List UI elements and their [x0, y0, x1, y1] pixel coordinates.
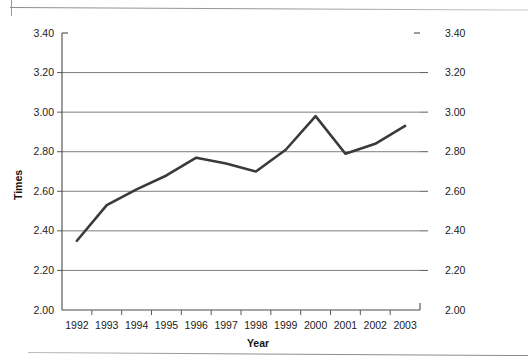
y-axis-left-tick-label: 3.00 [34, 106, 55, 118]
x-axis-tick-label: 1997 [214, 319, 238, 331]
y-axis-right-tick-label: 2.20 [445, 264, 466, 276]
x-axis-tick-label: 2002 [364, 319, 388, 331]
y-axis-right-tick-label: 3.00 [445, 106, 466, 118]
y-axis-left-tick-label: 3.40 [34, 27, 55, 39]
x-axis-tick-label: 1999 [274, 319, 298, 331]
y-axis-left-tick-label: 2.80 [34, 145, 55, 157]
x-axis-tick-label: 2000 [304, 319, 328, 331]
y-axis-right-tick-label: 2.60 [445, 185, 466, 197]
x-axis-tick-label: 2001 [334, 319, 358, 331]
x-axis-tick-label: 1993 [95, 319, 119, 331]
x-axis-title: Year [247, 337, 269, 349]
line-chart-figure: 3.403.203.002.802.602.402.202.00 3.403.2… [0, 0, 528, 362]
x-axis-tick-label: 1996 [185, 319, 209, 331]
gridlines-group [62, 73, 420, 271]
x-axis-tick-marks [92, 310, 390, 315]
x-axis-tick-label: 1998 [244, 319, 268, 331]
x-axis-tick-labels: 1992199319941995199619971998199920002001… [65, 319, 417, 331]
x-axis-tick-label: 1992 [65, 319, 89, 331]
y-axis-right-tick-labels: 3.403.203.002.802.602.402.202.00 [420, 27, 466, 316]
y-axis-left-tick-labels: 3.403.203.002.802.602.402.202.00 [34, 27, 62, 316]
y-axis-title: Times [12, 170, 24, 200]
y-axis-left-tick-label: 2.60 [34, 185, 55, 197]
y-axis-left-tick-label: 2.40 [34, 224, 55, 236]
y-axis-left-tick-label: 3.20 [34, 66, 55, 78]
y-axis-left-tick-label: 2.20 [34, 264, 55, 276]
x-axis-tick-label: 1995 [155, 319, 179, 331]
chart-canvas: 3.403.203.002.802.602.402.202.00 3.403.2… [0, 0, 528, 362]
y-axis-right-tick-label: 2.00 [445, 304, 466, 316]
y-axis-right-tick-label: 3.40 [445, 27, 466, 39]
y-axis-right-tick-label: 2.40 [445, 224, 466, 236]
y-axis-left-tick-label: 2.00 [34, 304, 55, 316]
data-series-line-times [77, 116, 405, 241]
y-axis-right-tick-label: 2.80 [445, 145, 466, 157]
x-axis-tick-label: 1994 [125, 319, 149, 331]
y-axis-right-tick-label: 3.20 [445, 66, 466, 78]
x-axis-tick-label: 2003 [393, 319, 417, 331]
